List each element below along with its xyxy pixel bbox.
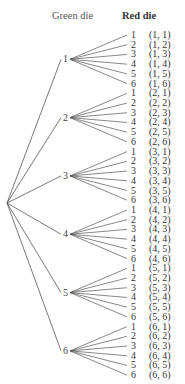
red-die-leaf: 6: [131, 370, 136, 380]
green-die-node: 2: [63, 113, 68, 123]
branch-root-to-green-5: [7, 203, 61, 293]
branch-root-to-green-4: [7, 203, 61, 234]
green-die-node: 6: [63, 346, 68, 356]
outcome-pair: (6, 6): [149, 370, 171, 380]
green-die-node: 1: [63, 54, 68, 64]
green-die-node: 5: [63, 288, 68, 298]
branch-root-to-green-6: [7, 203, 61, 351]
green-die-node: 3: [63, 171, 68, 181]
green-die-node: 4: [63, 229, 68, 239]
